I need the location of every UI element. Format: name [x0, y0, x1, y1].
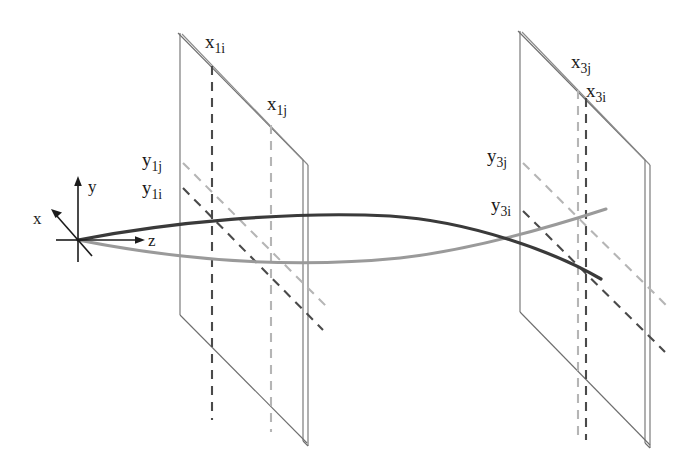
label-y3j-sub: 3j [497, 155, 508, 170]
label-x1j-base: x [267, 93, 277, 114]
label-y3j-base: y [487, 145, 497, 166]
y-axis-arrowhead [74, 176, 82, 186]
label-x1i-sub: 1i [215, 41, 226, 56]
axis-label-x: x [33, 209, 42, 228]
label-x1j: x1j [267, 93, 287, 118]
plane-1-face [180, 33, 305, 443]
label-y3i-sub: 3i [501, 204, 512, 219]
x-axis-line [56, 215, 78, 240]
axis-label-z: z [148, 231, 156, 250]
x-axis-arrowhead [51, 209, 62, 218]
z-axis-arrowhead [135, 236, 145, 244]
label-y3i-base: y [491, 194, 501, 215]
label-y1j-sub: 1j [152, 159, 163, 174]
label-y3j: y3j [487, 145, 507, 170]
label-y1i: y1i [142, 177, 162, 202]
label-x1i-base: x [205, 31, 215, 52]
plane-1-group [178, 33, 327, 446]
projection-diagram: y z x x1i x1j y1j y1i x3j x3i [0, 0, 694, 468]
label-y1i-sub: 1i [152, 187, 163, 202]
label-y1i-base: y [142, 177, 152, 198]
label-y1j-base: y [142, 149, 152, 170]
label-y1j: y1j [142, 149, 162, 174]
label-x1i: x1i [205, 31, 225, 56]
label-x3j-sub: 3j [581, 61, 592, 76]
label-x3j: x3j [571, 51, 591, 76]
figure-root: y z x x1i x1j y1j y1i x3j x3i [0, 0, 694, 468]
plane-3-face [520, 31, 648, 445]
label-x1j-sub: 1j [277, 103, 288, 118]
axis-label-y: y [88, 177, 97, 196]
label-x3j-base: x [571, 51, 581, 72]
label-y3i: y3i [491, 194, 511, 219]
label-x3i-sub: 3i [596, 90, 607, 105]
label-x3i-base: x [586, 80, 596, 101]
